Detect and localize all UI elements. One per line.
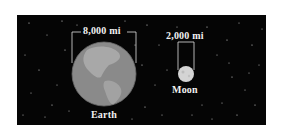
earth-name-label: Earth <box>91 109 117 120</box>
moon-name-label: Moon <box>172 84 198 95</box>
moon-dimension-marker <box>178 42 194 70</box>
space-panel: 8,000 mi 2,000 mi Moon Earth <box>17 15 266 125</box>
earth-globe <box>72 42 136 106</box>
earth-diameter-label: 8,000 mi <box>81 25 123 36</box>
moon-globe <box>178 66 194 82</box>
space-scene <box>17 15 266 125</box>
starfield <box>23 20 263 119</box>
moon-diameter-label: 2,000 mi <box>166 30 204 41</box>
